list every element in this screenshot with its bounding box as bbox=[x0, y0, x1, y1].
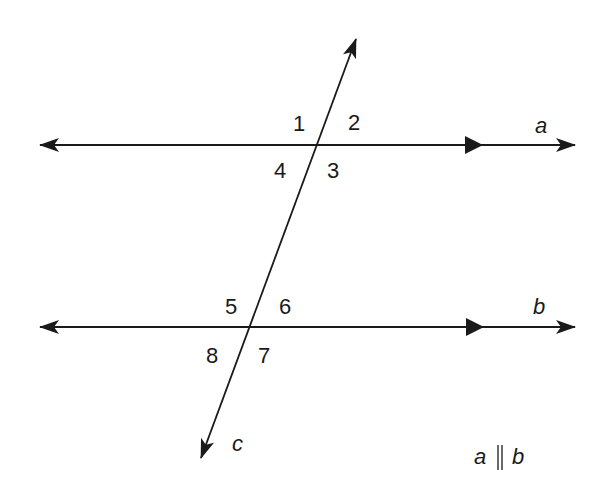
angle-label-5: 5 bbox=[225, 294, 237, 319]
line-label-c: c bbox=[232, 431, 243, 456]
angle-label-8: 8 bbox=[206, 343, 218, 368]
angle-label-3: 3 bbox=[327, 158, 339, 183]
angle-label-6: 6 bbox=[279, 294, 291, 319]
line-b bbox=[40, 318, 575, 336]
angle-label-7: 7 bbox=[258, 343, 270, 368]
caption-left: a bbox=[474, 444, 486, 469]
parallel-lines-diagram: 1 2 3 4 5 6 7 8 a b c a b bbox=[0, 0, 596, 492]
parallel-caption: a b bbox=[474, 444, 524, 470]
angle-label-2: 2 bbox=[348, 110, 360, 135]
line-label-a: a bbox=[535, 113, 547, 138]
parallel-mark-icon bbox=[465, 136, 483, 154]
angle-label-4: 4 bbox=[274, 158, 286, 183]
caption-right: b bbox=[512, 444, 524, 469]
parallel-mark-icon bbox=[466, 318, 484, 336]
line-label-b: b bbox=[533, 294, 545, 319]
angle-label-1: 1 bbox=[293, 111, 305, 136]
line-a bbox=[40, 136, 575, 154]
transversal-c bbox=[201, 39, 356, 458]
